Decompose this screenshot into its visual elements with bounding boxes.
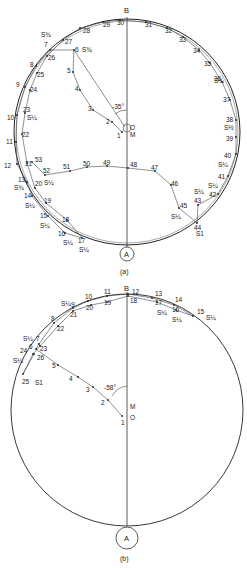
point-label: 18 (62, 216, 70, 223)
track-point (16, 163, 18, 165)
point-label: 22 (57, 325, 65, 332)
sail-setting-label: S¼ (214, 77, 224, 84)
point-label: 16 (172, 306, 180, 313)
point-label: 47 (151, 164, 159, 171)
point-label: 48 (130, 161, 138, 168)
track-point (197, 204, 199, 206)
track-point (26, 181, 28, 183)
point-label: 46 (171, 180, 179, 187)
label-a-a: A (124, 250, 129, 259)
label-o-b: O (130, 414, 135, 421)
track-b (23, 294, 193, 416)
angle-arc-a (115, 110, 127, 114)
point-label: 6 (75, 46, 79, 53)
sail-setting-label: S¼ (218, 161, 228, 168)
point-label: 2 (106, 118, 110, 125)
track-point (87, 300, 89, 302)
track-point (111, 121, 113, 123)
point-label: 53 (35, 156, 43, 163)
point-label: 1 (121, 419, 125, 426)
point-label: 22 (22, 131, 30, 138)
track-point (44, 174, 46, 176)
track-point (192, 315, 194, 317)
point-label: 35 (204, 60, 212, 67)
point-label: 31 (145, 21, 153, 28)
track-point (217, 193, 219, 195)
point-label: 3 (88, 105, 92, 112)
sail-setting-label: S¼ (40, 222, 50, 229)
angle-label-a: -35° (112, 103, 124, 110)
sail-setting-label: S¾ (41, 31, 51, 38)
sail-setting-label: S¼ (44, 179, 54, 186)
point-label: 6 (29, 343, 33, 350)
track-point (127, 167, 129, 169)
point-label: 7 (44, 41, 48, 48)
point-label: 11 (6, 138, 13, 145)
point-label: 52 (43, 167, 51, 174)
point-label: 26 (37, 354, 45, 361)
track-point (127, 295, 129, 297)
point-label: 12 (132, 288, 140, 295)
point-label: 34 (193, 47, 201, 54)
sail-setting-label: S¼ (25, 202, 35, 209)
track-point (35, 65, 37, 67)
angle-label-b: -58° (104, 384, 116, 391)
sail-setting-label: S¼ (27, 114, 37, 121)
track-point (77, 376, 79, 378)
point-label: 43 (194, 197, 202, 204)
sail-setting-label: S¼ (61, 300, 71, 307)
track-point (15, 141, 17, 143)
track-point (69, 170, 71, 172)
diagram-b: B M O -58° A (b) 12345678910111213141516… (11, 284, 243, 563)
point-label: 19 (104, 299, 112, 306)
sail-setting-label: S¼ (63, 239, 73, 246)
point-label: 17 (155, 299, 163, 306)
label-m-b: M (130, 403, 135, 410)
sail-setting-label: S¼ (171, 213, 181, 220)
track-point (53, 322, 55, 324)
point-label: 16 (58, 230, 66, 237)
track-point (227, 175, 229, 177)
point-label: 15 (40, 212, 48, 219)
heading-line-a (74, 50, 125, 127)
track-point (49, 49, 51, 51)
track-point (72, 71, 74, 73)
sail-setting-label: S1 (35, 379, 43, 386)
label-m-a: M (130, 131, 135, 138)
track-point (79, 89, 81, 91)
track-point (34, 187, 36, 189)
track-point (79, 27, 81, 29)
sail-setting-label: S¾ (82, 46, 92, 53)
track-point (35, 348, 37, 350)
point-label: 18 (130, 297, 138, 304)
track-point (121, 415, 123, 417)
point-label: 3 (86, 386, 90, 393)
point-label: 13 (18, 176, 26, 183)
track-point (107, 399, 109, 401)
sail-setting-label: S¼ (157, 309, 167, 316)
point-label: 10 (85, 293, 93, 300)
point-label: 25 (22, 378, 30, 385)
point-label: 20 (35, 180, 43, 187)
point-label: 20 (86, 304, 94, 311)
point-label: 14 (24, 192, 32, 199)
point-label: 32 (165, 27, 173, 34)
track-point (47, 215, 49, 217)
point-label: 11 (104, 288, 111, 295)
caption-b: (b) (120, 555, 129, 563)
point-label: 24 (20, 347, 28, 354)
point-label: 12 (4, 162, 12, 169)
sail-setting-label: S¼ (79, 246, 89, 253)
point-label: 49 (103, 159, 111, 166)
point-label: 17 (78, 237, 86, 244)
point-label: 21 (25, 160, 33, 167)
track-point (92, 109, 94, 111)
point-label: 33 (179, 36, 187, 43)
sail-setting-label: S¼ (208, 182, 218, 189)
point-label: 29 (103, 21, 111, 28)
sail-setting-label: S¼ (206, 314, 216, 321)
track-point (62, 39, 64, 41)
point-label: 26 (48, 54, 56, 61)
point-label: 5 (67, 67, 71, 74)
point-label: 42 (209, 191, 217, 198)
